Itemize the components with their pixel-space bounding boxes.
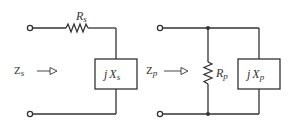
series-reactance-label: jXs bbox=[102, 67, 121, 82]
parallel-arrow-head bbox=[181, 68, 188, 75]
parallel-reactance-label: jXp bbox=[245, 67, 265, 82]
circuit-diagram: Rs jXs Zs Rp jXp Zp bbox=[0, 0, 298, 125]
series-impedance-label: Zs bbox=[14, 64, 25, 78]
series-resistor bbox=[66, 24, 88, 32]
parallel-impedance-label: Zp bbox=[146, 64, 158, 78]
parallel-top-terminal bbox=[157, 25, 162, 30]
series-top-terminal bbox=[27, 25, 32, 30]
series-circuit bbox=[27, 24, 137, 117]
series-bottom-terminal bbox=[27, 111, 32, 116]
parallel-resistor-label: Rp bbox=[215, 66, 228, 81]
parallel-bottom-terminal bbox=[157, 111, 162, 116]
series-arrow-head bbox=[50, 68, 57, 75]
series-resistor-label: Rs bbox=[75, 9, 87, 24]
parallel-resistor bbox=[204, 62, 212, 84]
